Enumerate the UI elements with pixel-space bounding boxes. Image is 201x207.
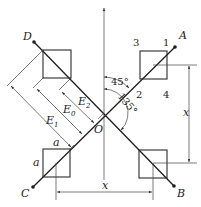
label-e1: E1 [45,114,59,129]
angle-45-label: 45° [111,76,129,87]
label-o: O [94,123,103,136]
label-e0: E0 [62,103,76,118]
label-e2: E2 [77,95,91,110]
corner-1: 1 [163,37,169,48]
point-b-dot [172,184,176,188]
cross-diagram: D A C B O 3 1 2 4 45° 135° E1 E0 E2 x x … [0,0,201,207]
point-d-dot [32,40,36,44]
label-a: A [178,29,187,42]
label-b: B [176,187,185,200]
e1-dimension-line [11,86,71,147]
label-x-horizontal: x [102,179,109,192]
label-d: D [22,30,32,43]
square-d [43,50,71,78]
x-vertical-dimension [153,65,197,163]
label-a-top: a [53,136,60,149]
point-a-dot [173,45,177,49]
label-a-left: a [33,156,40,169]
label-c: C [21,187,30,200]
corner-2: 2 [136,89,142,100]
label-x-vertical: x [183,106,190,119]
point-c-dot [31,185,35,189]
corner-3: 3 [133,37,139,48]
corner-4: 4 [163,89,169,100]
